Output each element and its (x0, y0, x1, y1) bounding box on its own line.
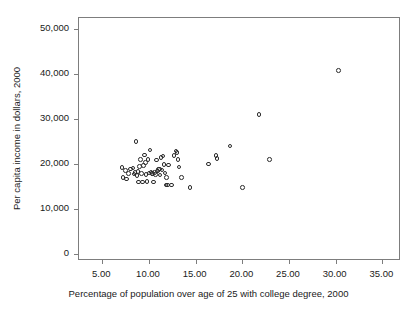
data-point (188, 185, 193, 190)
y-tick-label: 50,000 (0, 23, 69, 33)
x-tick-mark (289, 259, 290, 264)
y-tick-mark (74, 29, 79, 30)
x-tick-mark (382, 259, 383, 264)
x-tick-label: 15.00 (183, 269, 207, 279)
x-tick-label: 10.00 (136, 269, 160, 279)
plot-area (78, 17, 400, 260)
data-point (161, 154, 166, 159)
data-point (177, 165, 182, 170)
y-tick-label: 30,000 (0, 113, 69, 123)
data-point (145, 179, 150, 184)
data-point (179, 175, 184, 180)
data-point (134, 139, 139, 144)
data-point (169, 183, 174, 188)
data-point (257, 112, 262, 117)
data-point (164, 175, 169, 180)
scatter-plot-figure: Per capita income in dollars, 2000 Perce… (0, 0, 417, 318)
x-axis-title: Percentage of population over age of 25 … (0, 289, 417, 299)
y-tick-label: 40,000 (0, 68, 69, 78)
x-tick-mark (149, 259, 150, 264)
y-tick-label: 20,000 (0, 158, 69, 168)
x-tick-label: 20.00 (229, 269, 253, 279)
y-tick-mark (74, 209, 79, 210)
y-tick-mark (74, 164, 79, 165)
x-tick-label: 25.00 (276, 269, 300, 279)
data-point (148, 148, 153, 153)
data-point (163, 171, 168, 176)
x-tick-mark (196, 259, 197, 264)
data-point (267, 157, 272, 162)
y-tick-label: 0 (0, 248, 69, 258)
data-point (240, 185, 245, 190)
x-tick-label: 5.00 (92, 269, 111, 279)
data-point (158, 173, 163, 178)
x-tick-label: 35.00 (369, 269, 393, 279)
data-point (142, 153, 147, 158)
data-point (146, 157, 151, 162)
x-tick-mark (102, 259, 103, 264)
y-tick-mark (74, 74, 79, 75)
x-tick-label: 30.00 (323, 269, 347, 279)
y-tick-label: 10,000 (0, 203, 69, 213)
data-point (175, 150, 180, 155)
data-point (215, 156, 220, 161)
x-tick-mark (242, 259, 243, 264)
y-tick-mark (74, 254, 79, 255)
x-tick-mark (336, 259, 337, 264)
data-point (336, 68, 341, 73)
data-point (154, 158, 159, 163)
y-axis-title: Per capita income in dollars, 2000 (10, 17, 24, 260)
data-point (176, 157, 181, 162)
data-point (228, 144, 233, 149)
data-point (206, 162, 211, 167)
data-point (124, 177, 129, 182)
data-point (151, 180, 156, 185)
y-tick-mark (74, 119, 79, 120)
data-point (126, 171, 131, 176)
data-point (166, 163, 171, 168)
